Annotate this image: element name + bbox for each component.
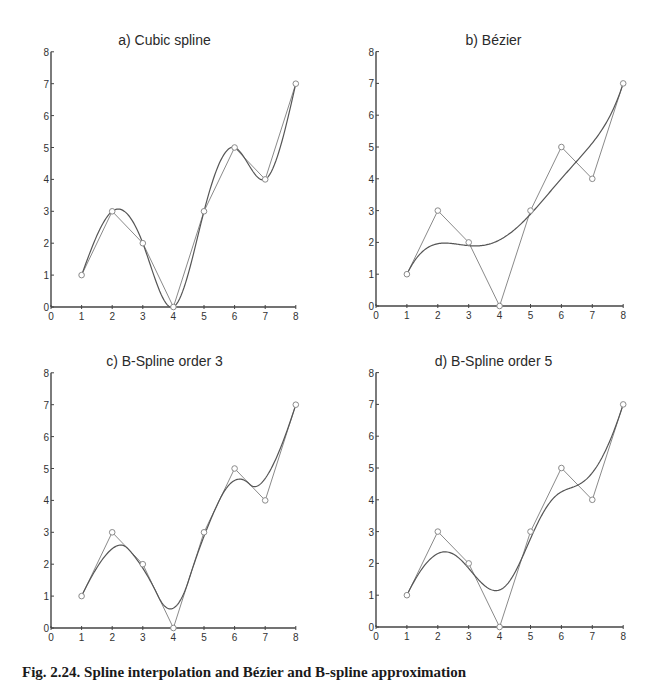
x-tick-label: 6 [559,310,565,321]
control-point-marker [201,530,207,536]
x-tick-label: 5 [528,631,534,642]
x-tick-label: 0 [373,631,379,642]
y-tick-label: 0 [43,302,49,313]
x-tick-label: 7 [262,632,268,643]
control-point-marker [404,271,410,277]
control-point-marker [497,624,503,630]
plot-bezier: 012345678012345678 [329,0,658,325]
y-tick-label: 4 [368,495,374,506]
control-polygon [407,83,623,306]
control-point-marker [262,177,268,183]
x-tick-label: 6 [559,631,565,642]
control-point-marker [559,465,565,471]
x-tick-label: 4 [497,631,503,642]
y-tick-label: 4 [368,174,374,185]
control-polygon [82,405,296,628]
y-tick-label: 2 [368,558,374,569]
x-tick-label: 2 [435,631,441,642]
axes: 012345678012345678 [368,368,626,642]
x-tick-label: 8 [620,310,626,321]
y-tick-label: 6 [368,110,374,121]
control-point-marker [497,303,503,309]
y-tick-label: 8 [43,47,49,58]
fitted-curve [82,84,296,308]
y-tick-label: 7 [368,78,374,89]
control-point-marker [171,304,177,310]
fitted-curve [82,405,296,609]
x-tick-label: 2 [109,632,115,643]
control-point-marker [528,529,534,535]
control-point-marker [435,529,441,535]
control-point-marker [466,240,472,246]
y-tick-label: 7 [368,399,374,410]
control-point-marker [466,561,472,567]
y-tick-label: 5 [368,142,374,153]
x-tick-label: 4 [497,310,503,321]
control-point-marker [109,209,115,215]
y-tick-label: 7 [43,79,49,90]
panel-bspline-order-5: d) B-Spline order 5 012345678012345678 [329,321,658,646]
panel-bspline-order-3: c) B-Spline order 3 012345678012345678 [0,321,329,646]
axes: 012345678012345678 [368,47,626,321]
control-point-marker [79,272,85,278]
control-point-marker [293,81,299,87]
y-tick-label: 1 [43,591,49,602]
control-point-marker [140,240,146,246]
y-tick-label: 8 [368,47,374,58]
panel-bezier: b) Bézier 012345678012345678 [329,0,658,325]
y-tick-label: 3 [368,206,374,217]
x-tick-label: 7 [590,631,596,642]
y-tick-label: 0 [368,301,374,312]
control-point-marker [262,498,268,504]
x-tick-label: 0 [48,632,54,643]
y-tick-label: 8 [368,368,374,379]
control-point-marker [528,208,534,214]
control-point-marker [590,176,596,182]
y-tick-label: 5 [368,463,374,474]
y-tick-label: 3 [43,527,49,538]
axes: 012345678012345678 [43,368,299,643]
y-tick-label: 7 [43,400,49,411]
y-tick-label: 4 [43,495,49,506]
y-tick-label: 2 [368,237,374,248]
figure-caption: Fig. 2.24. Spline interpolation and Bézi… [22,664,466,681]
plot-bspline-order-5: 012345678012345678 [329,321,658,646]
y-tick-label: 0 [43,623,49,634]
y-tick-label: 2 [43,238,49,249]
x-tick-label: 0 [373,310,379,321]
y-tick-label: 4 [43,174,49,185]
y-tick-label: 6 [43,111,49,122]
x-tick-label: 3 [140,632,146,643]
y-tick-label: 5 [43,143,49,154]
x-tick-label: 1 [79,632,85,643]
control-point-marker [293,402,299,408]
x-tick-label: 1 [404,310,410,321]
control-point-marker [404,592,410,598]
control-point-marker [590,497,596,503]
x-tick-label: 8 [620,631,626,642]
control-point-marker [435,208,441,214]
y-tick-label: 1 [368,269,374,280]
y-tick-label: 1 [43,270,49,281]
control-point-marker [140,561,146,567]
x-tick-label: 8 [293,632,299,643]
control-point-marker [232,145,238,151]
x-tick-label: 5 [201,632,207,643]
x-tick-label: 5 [528,310,534,321]
control-point-marker [232,466,238,472]
y-tick-label: 5 [43,464,49,475]
y-tick-label: 6 [368,431,374,442]
y-tick-label: 2 [43,559,49,570]
y-tick-label: 8 [43,368,49,379]
x-tick-label: 7 [590,310,596,321]
y-tick-label: 3 [368,527,374,538]
x-tick-label: 1 [404,631,410,642]
control-point-marker [201,209,207,215]
x-tick-label: 4 [171,632,177,643]
control-point-marker [620,81,626,87]
x-tick-label: 3 [466,631,472,642]
control-point-marker [109,530,115,536]
y-tick-label: 6 [43,432,49,443]
y-tick-label: 3 [43,206,49,217]
panel-cubic-spline: a) Cubic spline 012345678012345678 [0,0,329,325]
